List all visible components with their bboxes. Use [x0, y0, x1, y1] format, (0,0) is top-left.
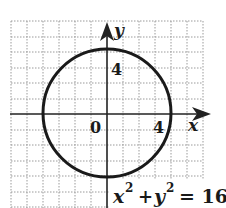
circle-graph: y x 4 0 4 x 2 + y 2 = 16 [0, 0, 226, 208]
y-tick-label: 4 [111, 60, 122, 79]
svg-text:2: 2 [166, 181, 174, 195]
x-axis-label: x [187, 115, 199, 135]
svg-text:y: y [153, 185, 167, 207]
origin-label: 0 [90, 118, 101, 137]
svg-text:= 16: = 16 [179, 185, 226, 207]
x-tick-label: 4 [153, 118, 164, 137]
svg-text:x: x [112, 185, 125, 207]
svg-text:+: + [138, 186, 153, 207]
y-axis-label: y [113, 20, 125, 40]
svg-text:2: 2 [125, 181, 133, 195]
